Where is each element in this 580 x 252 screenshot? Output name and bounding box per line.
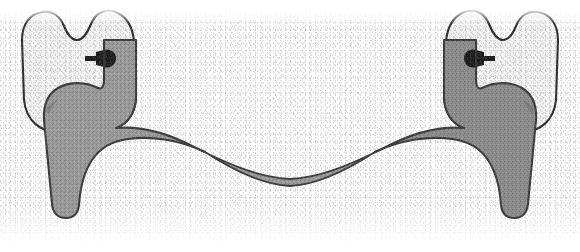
illustration-canvas <box>0 0 580 252</box>
dental-illustration-figure: Mandibular removable partial denture fra… <box>0 0 580 252</box>
